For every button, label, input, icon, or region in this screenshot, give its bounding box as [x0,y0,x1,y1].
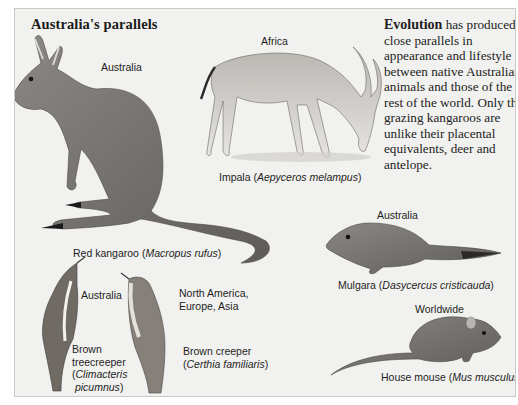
illustration-panel: Australia's parallels Evolution has prod… [14,8,516,397]
treecreeper-scientific-line2: picumnus [75,381,120,393]
treecreeper-common-line1: Brown [72,343,127,356]
kangaroo-region-label: Australia [101,61,142,74]
impala-region-label: Africa [261,35,288,48]
treecreeper-region-label: Australia [81,289,122,302]
page-title: Australia's parallels [31,16,158,33]
kangaroo-scientific-name: Macropus rufus [145,247,217,259]
kangaroo-caption: Red kangaroo (Macropus rufus) [73,247,221,260]
treecreeper-common-line2: treecreeper [72,356,127,369]
brown-creeper-illustration [121,273,165,393]
intro-body: has produced close parallels in appearan… [384,17,516,172]
creeper-region-line1: North America, [179,287,248,300]
treecreeper-caption: Brown treecreeper (Climacteris picumnus) [72,343,127,393]
mulgara-common-name: Mulgara [338,279,376,291]
mulgara-region-label: Australia [377,209,418,222]
creeper-scientific-name: Certhia familiaris [187,358,265,370]
creeper-common-name: Brown creeper [183,345,268,358]
impala-common-name: Impala [219,171,251,183]
mouse-region-label: Worldwide [415,303,464,316]
impala-caption: Impala (Aepyceros melampus) [219,171,361,184]
mouse-scientific-name: Mus musculus [452,371,516,383]
mulgara-caption: Mulgara (Dasycercus cristicauda) [338,279,494,292]
impala-illustration [201,47,381,162]
creeper-region-label: North America, Europe, Asia [179,287,248,312]
impala-scientific-name: Aepyceros melampus [257,171,358,183]
house-mouse-illustration [331,317,501,375]
treecreeper-scientific-line1: Climacteris [76,368,128,380]
creeper-region-line2: Europe, Asia [179,300,248,313]
mulgara-illustration [326,223,501,274]
kangaroo-common-name: Red kangaroo [73,247,139,259]
mouse-common-name: House mouse [381,371,446,383]
intro-lead: Evolution [384,17,442,32]
mouse-caption: House mouse (Mus musculus) [381,371,516,384]
intro-paragraph: Evolution has produced close parallels i… [384,17,516,172]
mulgara-scientific-name: Dasycercus cristicauda [382,279,490,291]
creeper-caption: Brown creeper (Certhia familiaris) [183,345,268,370]
